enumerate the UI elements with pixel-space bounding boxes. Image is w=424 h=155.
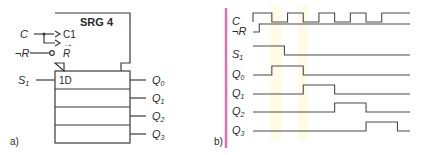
serial-input-label: S1 (18, 74, 29, 87)
reset-input-label: ¬R (15, 47, 29, 59)
block-title: SRG 4 (80, 16, 114, 28)
figure-a-label: a) (10, 136, 19, 147)
output-label-q2: Q2 (152, 110, 165, 123)
figure-a: SRG 4 C C1 → ¬R R S1 1D Q0Q1Q2Q3 a) (10, 13, 165, 147)
output-label-q1: Q1 (152, 92, 165, 105)
signal-label: ¬R (232, 25, 246, 37)
serial-pin-label: 1D (59, 75, 72, 86)
diagram-canvas: SRG 4 C C1 → ¬R R S1 1D Q0Q1Q2Q3 a) C¬RS… (0, 0, 424, 155)
signal-label: Q2 (232, 105, 245, 118)
inversion-bubble-icon (50, 51, 55, 56)
shift-triangle-icon (55, 40, 60, 46)
figure-b-label: b) (214, 136, 223, 147)
signal-label: S1 (232, 48, 243, 61)
outputs: Q0Q1Q2Q3 (130, 74, 165, 141)
signal-label: Q3 (232, 124, 245, 137)
clock-branch (44, 34, 55, 43)
figure-b: C¬RS1Q0Q1Q2Q3 b) (214, 8, 410, 148)
output-label-q0: Q0 (152, 74, 165, 87)
clock-triangle-icon (55, 31, 60, 37)
reset-pin-label: R (63, 48, 70, 59)
clock-input-label: C (20, 28, 28, 40)
signal-label: Q0 (232, 68, 245, 81)
timing-diagram: C¬RS1Q0Q1Q2Q3 (232, 13, 410, 137)
signal-label: Q1 (232, 87, 245, 100)
output-label-q3: Q3 (152, 128, 165, 141)
